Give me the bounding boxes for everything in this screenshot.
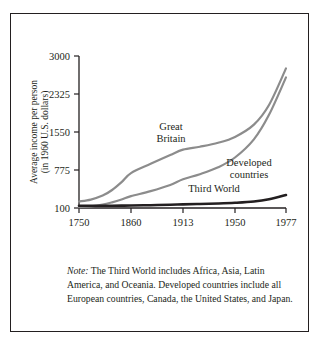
y-axis-tick-labels: 100775155023253000	[49, 51, 70, 214]
y-tick-label: 2325	[49, 89, 70, 100]
figure-frame: 100775155023253000 17501860191319501977 …	[10, 13, 309, 332]
x-tick-label: 1860	[121, 217, 142, 228]
note-prefix: Note:	[67, 265, 89, 276]
note-body: The Third World includes Africa, Asia, L…	[67, 265, 293, 304]
y-axis-title-line1: Average income per person	[29, 80, 39, 184]
y-axis-title-line2: (in 1960 U.S. dollars)	[40, 91, 51, 174]
figure-note: Note: The Third World includes Africa, A…	[67, 264, 295, 305]
developed-countries-label-line2: countries	[230, 169, 269, 180]
y-axis-title: Average income per person (in 1960 U.S. …	[29, 80, 51, 184]
y-tick-label: 100	[54, 203, 70, 214]
x-axis-ticks	[79, 208, 286, 213]
x-tick-label: 1913	[173, 217, 194, 228]
x-tick-label: 1750	[69, 217, 90, 228]
y-tick-label: 775	[54, 165, 70, 176]
great-britain-label-line1: Great	[159, 121, 182, 132]
income-line-chart: 100775155023253000 17501860191319501977 …	[11, 14, 310, 254]
y-tick-label: 1550	[49, 127, 70, 138]
series-annotation-third-world: Third World	[188, 183, 240, 194]
series-annotation-great-britain: Great Britain	[156, 121, 186, 144]
x-axis-tick-labels: 17501860191319501977	[69, 217, 297, 228]
series-line-third-world	[79, 195, 286, 206]
developed-countries-label-line1: Developed	[226, 157, 272, 168]
y-axis-ticks	[74, 56, 79, 208]
y-tick-label: 3000	[49, 51, 70, 62]
third-world-label: Third World	[188, 183, 240, 194]
great-britain-label-line2: Britain	[156, 133, 186, 144]
series-annotation-developed-countries: Developed countries	[226, 157, 272, 180]
x-tick-label: 1950	[225, 217, 246, 228]
x-tick-label: 1977	[276, 217, 297, 228]
chart-plot-area: 100775155023253000 17501860191319501977 …	[11, 14, 310, 254]
